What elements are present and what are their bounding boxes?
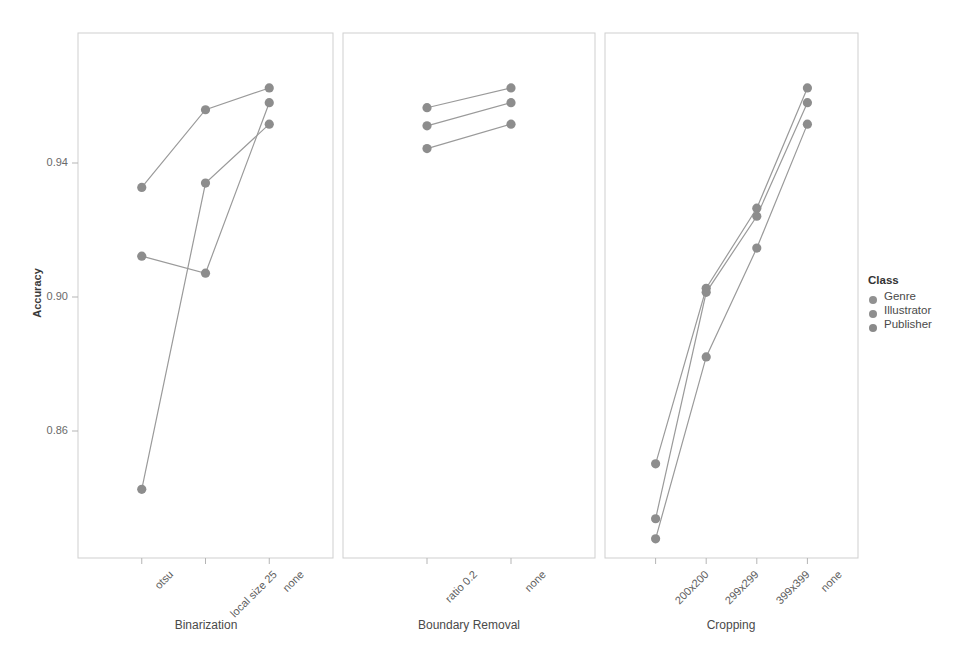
series-line-publisher-panel2 xyxy=(427,124,511,148)
data-point-genre-panel3-3 xyxy=(803,83,812,92)
chart-canvas xyxy=(0,0,977,665)
x-axis-ticks xyxy=(142,558,808,564)
data-point-genre-panel1-2 xyxy=(265,83,274,92)
data-point-genre-panel3-0 xyxy=(651,459,660,468)
data-point-publisher-panel3-0 xyxy=(651,534,660,543)
panel-frame-3 xyxy=(605,33,858,558)
facet-label-binarization: Binarization xyxy=(126,618,286,632)
data-point-genre-panel2-0 xyxy=(422,103,431,112)
data-point-illustrator-panel1-0 xyxy=(137,252,146,261)
data-point-illustrator-panel2-1 xyxy=(506,98,515,107)
series-line-publisher-panel3 xyxy=(656,124,808,539)
y-tick-label-086: 0.86 xyxy=(22,424,68,436)
y-axis-ticks xyxy=(72,163,78,431)
series-line-genre-panel3 xyxy=(656,88,808,464)
data-point-illustrator-panel2-0 xyxy=(422,121,431,130)
legend-item-label-publisher: Publisher xyxy=(884,318,932,330)
series-line-illustrator-panel2 xyxy=(427,103,511,126)
chart-root: Accuracy 0.94 0.90 0.86 Binarization Bou… xyxy=(0,0,977,665)
series-lines xyxy=(142,88,808,539)
legend-title: Class xyxy=(868,274,899,286)
data-point-genre-panel1-0 xyxy=(137,183,146,192)
data-point-publisher-panel1-0 xyxy=(137,485,146,494)
data-point-publisher-panel1-1 xyxy=(201,179,210,188)
data-point-publisher-panel3-2 xyxy=(752,243,761,252)
data-point-genre-panel2-1 xyxy=(506,83,515,92)
series-line-genre-panel2 xyxy=(427,88,511,108)
legend-item-label-genre: Genre xyxy=(884,290,916,302)
series-line-illustrator-panel1 xyxy=(142,103,270,274)
data-point-publisher-panel1-2 xyxy=(265,120,274,129)
data-point-publisher-panel3-1 xyxy=(702,352,711,361)
data-point-illustrator-panel3-3 xyxy=(803,98,812,107)
data-point-illustrator-panel1-1 xyxy=(201,269,210,278)
data-point-publisher-panel2-1 xyxy=(506,120,515,129)
series-line-genre-panel1 xyxy=(142,88,270,187)
data-point-genre-panel3-2 xyxy=(752,204,761,213)
data-point-illustrator-panel1-2 xyxy=(265,98,274,107)
facet-label-cropping: Cropping xyxy=(651,618,811,632)
y-tick-label-094: 0.94 xyxy=(22,156,68,168)
legend-key-dot-genre xyxy=(869,296,877,304)
facet-label-boundary-removal: Boundary Removal xyxy=(389,618,549,632)
data-point-genre-panel1-1 xyxy=(201,105,210,114)
legend-key-dot-publisher xyxy=(869,324,877,332)
data-point-illustrator-panel3-0 xyxy=(651,514,660,523)
legend-item-label-illustrator: Illustrator xyxy=(884,304,931,316)
data-point-publisher-panel2-0 xyxy=(422,144,431,153)
data-point-illustrator-panel3-2 xyxy=(752,212,761,221)
legend-key-dot-illustrator xyxy=(869,310,877,318)
data-point-publisher-panel3-3 xyxy=(803,120,812,129)
panel-frame-2 xyxy=(343,33,595,558)
y-tick-label-090: 0.90 xyxy=(22,290,68,302)
data-point-illustrator-panel3-1 xyxy=(702,288,711,297)
panel-frames xyxy=(78,33,858,558)
